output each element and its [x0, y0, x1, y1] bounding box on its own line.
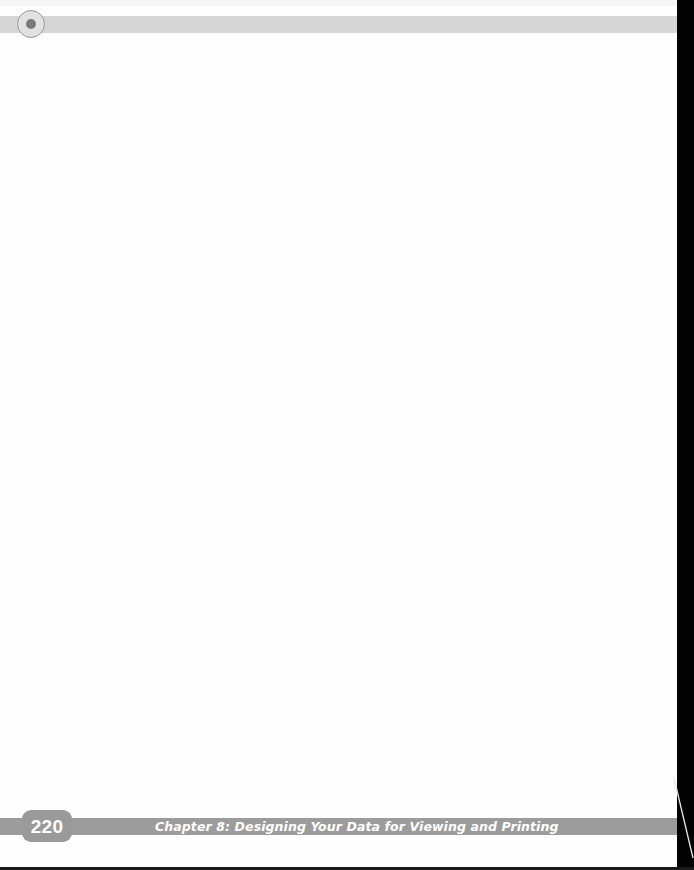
page-curl-line-icon — [672, 0, 694, 870]
scan-edge-shadow — [677, 0, 694, 870]
page-body-blank — [0, 40, 670, 800]
book-page: 220 Chapter 8: Designing Your Data for V… — [0, 0, 677, 867]
page-number-tab: 220 — [22, 810, 72, 842]
top-margin-strip — [0, 0, 677, 6]
target-dot-icon — [26, 19, 36, 29]
header-bar — [0, 16, 677, 33]
running-chapter-title: Chapter 8: Designing Your Data for Viewi… — [155, 818, 559, 835]
page-number: 220 — [31, 817, 64, 836]
target-circle-icon — [17, 10, 45, 38]
